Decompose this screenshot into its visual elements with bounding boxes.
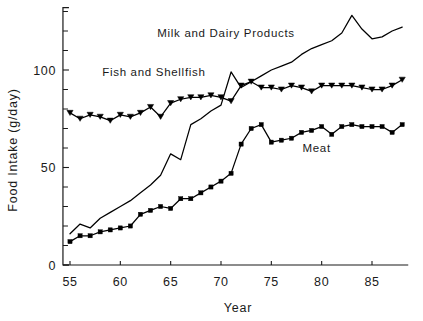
data-point-marker <box>350 123 354 127</box>
data-point-marker <box>169 206 173 210</box>
data-point-marker <box>310 128 314 132</box>
x-axis-tick-label: 80 <box>314 275 329 289</box>
chart-ticks <box>63 12 372 266</box>
data-point-marker <box>389 83 395 88</box>
x-axis-title: Year <box>224 301 252 315</box>
data-point-marker <box>108 228 112 232</box>
data-point-marker <box>239 142 243 146</box>
data-point-marker <box>78 234 82 238</box>
x-axis-tick-label: 85 <box>364 275 379 289</box>
data-point-marker <box>77 116 83 121</box>
data-point-marker <box>88 234 92 238</box>
data-point-marker <box>370 124 374 128</box>
data-point-marker <box>107 118 113 123</box>
data-point-marker <box>137 110 143 115</box>
line-chart: 05010055606570758085 Milk and Dairy Prod… <box>0 0 423 321</box>
y-axis-title: Food Intake (g/day) <box>6 88 20 212</box>
data-point-marker <box>390 130 394 134</box>
data-point-marker <box>189 197 193 201</box>
series-fish-and-shellfish <box>67 77 405 123</box>
data-point-marker <box>168 101 174 106</box>
data-point-marker <box>68 240 72 244</box>
data-point-marker <box>98 230 102 234</box>
series-meat <box>68 123 404 244</box>
x-axis-tick-label: 60 <box>113 275 128 289</box>
x-axis-tick-label: 70 <box>213 275 228 289</box>
chart-tick-labels: 05010055606570758085 <box>33 64 379 290</box>
y-axis-tick-label: 0 <box>48 259 56 273</box>
data-point-marker <box>330 132 334 136</box>
x-axis-tick-label: 65 <box>163 275 178 289</box>
data-point-marker <box>400 123 404 127</box>
y-axis-tick-label: 100 <box>33 64 56 78</box>
data-point-marker <box>340 124 344 128</box>
data-point-marker <box>269 140 273 144</box>
data-point-marker <box>360 124 364 128</box>
series-label: Milk and Dairy Products <box>157 27 295 39</box>
series-label: Meat <box>302 142 330 154</box>
data-point-marker <box>228 99 234 104</box>
data-point-marker <box>249 126 253 130</box>
data-point-marker <box>299 130 303 134</box>
data-point-marker <box>309 89 315 94</box>
x-axis-tick-label: 55 <box>62 275 77 289</box>
data-point-marker <box>219 179 223 183</box>
data-point-marker <box>159 204 163 208</box>
data-point-marker <box>320 124 324 128</box>
data-point-marker <box>158 114 164 119</box>
data-point-marker <box>199 191 203 195</box>
data-point-marker <box>179 197 183 201</box>
data-point-marker <box>209 185 213 189</box>
data-point-marker <box>118 226 122 230</box>
data-point-marker <box>289 136 293 140</box>
data-point-marker <box>259 123 263 127</box>
data-point-marker <box>128 224 132 228</box>
data-point-marker <box>229 171 233 175</box>
chart-figure: 05010055606570758085 Milk and Dairy Prod… <box>0 0 423 321</box>
chart-axes <box>63 8 408 265</box>
y-axis-tick-label: 50 <box>41 161 56 175</box>
x-axis-tick-label: 75 <box>264 275 279 289</box>
data-point-marker <box>138 212 142 216</box>
series-label: Fish and Shellfish <box>102 66 205 78</box>
chart-series <box>67 15 405 243</box>
data-point-marker <box>380 124 384 128</box>
data-point-marker <box>279 138 283 142</box>
series-line <box>70 125 402 242</box>
data-point-marker <box>148 208 152 212</box>
